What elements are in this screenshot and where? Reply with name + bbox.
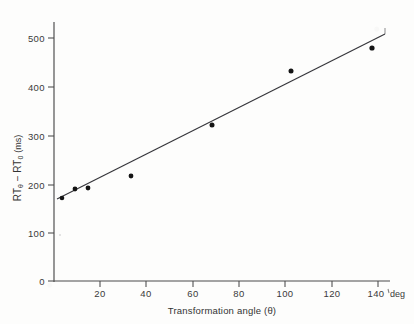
x-tick-label-140: 140 (367, 288, 384, 299)
y-tick-label-100: 100 (28, 228, 45, 239)
data-point (129, 174, 134, 179)
y-axis-title: RTθ − RT0 (ms) (12, 135, 24, 201)
regression-fit-line (57, 34, 385, 199)
scan-artifact-speck (59, 234, 61, 236)
x-axis-title: Transformation angle (θ) (168, 305, 276, 316)
y-tick-label-0: 0 (39, 276, 45, 287)
x-tick-label-40: 40 (140, 288, 151, 299)
y-tick-label-500: 500 (28, 33, 45, 44)
data-point (369, 45, 374, 50)
scan-artifact-tick (388, 289, 389, 293)
data-point (86, 186, 91, 191)
y-tick-label-200: 200 (28, 180, 45, 191)
y-axis-ticks (48, 38, 54, 281)
x-tick-label-120: 120 (323, 288, 340, 299)
x-tick-label-80: 80 (233, 288, 244, 299)
scatter-plot: 500 400 300 200 100 0 RTθ − RT0 (ms) 20 … (0, 0, 414, 324)
data-point (210, 123, 215, 128)
svg-text:RTθ − RT0 (ms): RTθ − RT0 (ms) (12, 135, 24, 201)
x-tick-label-20: 20 (94, 288, 105, 299)
y-axis-title-units: (ms) (13, 135, 23, 153)
x-tick-label-60: 60 (187, 288, 198, 299)
y-axis-title-rt2: RT (12, 160, 23, 173)
y-axis-title-rt1: RT (12, 188, 23, 201)
data-point (289, 69, 294, 74)
data-point (73, 187, 78, 192)
y-tick-label-400: 400 (28, 82, 45, 93)
x-tick-label-100: 100 (276, 288, 293, 299)
figure-canvas: 500 400 300 200 100 0 RTθ − RT0 (ms) 20 … (0, 0, 414, 324)
data-point-group (60, 45, 375, 200)
x-axis-ticks (100, 281, 378, 287)
y-tick-label-300: 300 (28, 131, 45, 142)
data-point (60, 196, 65, 201)
x-axis-unit-label: deg (390, 289, 405, 299)
